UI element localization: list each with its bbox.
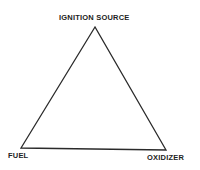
fire-triangle: [0, 0, 200, 170]
label-ignition-source: IGNITION SOURCE: [59, 13, 130, 22]
label-fuel: FUEL: [8, 151, 28, 160]
label-oxidizer: OXIDIZER: [147, 153, 184, 162]
